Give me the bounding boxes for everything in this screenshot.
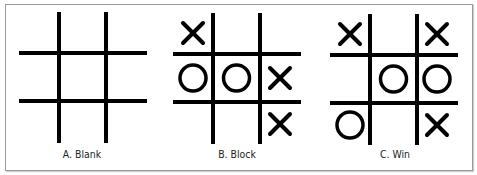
- label-win: C. Win: [353, 148, 438, 161]
- o-mark-icon: [424, 66, 450, 92]
- o-mark-icon: [381, 66, 407, 92]
- o-mark-icon: [180, 65, 206, 91]
- x-mark-icon: [340, 24, 360, 44]
- x-mark-icon: [427, 115, 447, 135]
- grid-lines: [19, 12, 147, 143]
- x-mark-icon: [270, 68, 290, 88]
- label-blank: A. Blank: [40, 148, 125, 161]
- o-mark-icon: [224, 65, 250, 91]
- o-mark-icon: [337, 112, 363, 138]
- x-mark-icon: [183, 23, 203, 43]
- x-mark-icon: [427, 24, 447, 44]
- label-block: B. Block: [195, 148, 280, 161]
- x-mark-icon: [270, 114, 290, 134]
- grid-lines: [330, 14, 458, 145]
- grid-lines: [173, 13, 301, 144]
